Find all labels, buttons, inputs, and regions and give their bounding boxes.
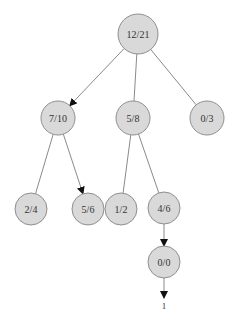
node-label: 2/4: [25, 204, 38, 215]
edge-7-10-to-2-4: [36, 134, 54, 193]
tree-node: 1/2: [105, 193, 137, 225]
node-label: 7/10: [49, 113, 67, 124]
node-label: 4/6: [158, 203, 171, 214]
edge-7-10-to-5-6: [63, 134, 83, 194]
edge-12-21-to-0-3: [151, 49, 197, 104]
tree-node: 5/8: [116, 101, 150, 135]
node-label: 5/8: [127, 113, 140, 124]
terminal-layer: 1: [162, 301, 167, 311]
tree-node: 5/6: [72, 193, 104, 225]
edge-5-8-to-1-2: [123, 135, 131, 193]
node-label: 1/2: [115, 204, 128, 215]
edge-5-8-to-4-6: [139, 134, 159, 193]
node-label: 5/6: [82, 204, 95, 215]
edge-12-21-to-7-10: [70, 48, 124, 105]
edge-12-21-to-5-8: [134, 54, 137, 101]
node-label: 0/0: [158, 257, 171, 268]
tree-node: 7/10: [41, 101, 75, 135]
tree-node: 12/21: [118, 14, 158, 54]
terminal-label: 1: [162, 301, 167, 311]
tree-node: 4/6: [148, 192, 180, 224]
tree-node: 2/4: [15, 193, 47, 225]
tree-diagram: 12/217/105/80/32/45/61/24/60/0 1: [0, 0, 233, 324]
tree-node: 0/3: [190, 101, 224, 135]
node-label: 0/3: [201, 113, 214, 124]
tree-node: 0/0: [148, 246, 180, 278]
node-label: 12/21: [127, 29, 150, 40]
